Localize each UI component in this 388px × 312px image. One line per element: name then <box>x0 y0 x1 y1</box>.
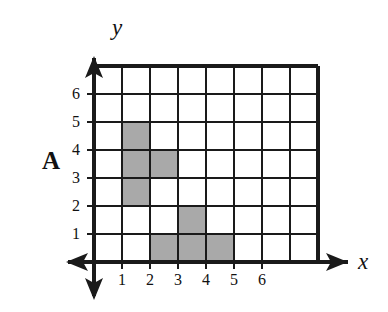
x-tick-label-4: 4 <box>197 272 215 288</box>
x-tick-label-5: 5 <box>225 272 243 288</box>
coordinate-grid-figure: A y x 1 2 3 4 5 6 6 5 4 3 2 1 <box>0 0 388 312</box>
x-tick-label-2: 2 <box>141 272 159 288</box>
x-tick-label-6: 6 <box>253 272 271 288</box>
y-tick-label-3: 3 <box>64 170 80 186</box>
y-tick-label-2: 2 <box>64 198 80 214</box>
y-tick-label-1: 1 <box>64 226 80 242</box>
y-axis-label: y <box>112 16 122 39</box>
y-tick-label-6: 6 <box>64 86 80 102</box>
x-axis-label: x <box>358 250 368 273</box>
panel-label-a: A <box>42 148 60 173</box>
x-tick-label-1: 1 <box>113 272 131 288</box>
y-tick-label-4: 4 <box>64 142 80 158</box>
y-tick-label-5: 5 <box>64 114 80 130</box>
x-tick-label-3: 3 <box>169 272 187 288</box>
